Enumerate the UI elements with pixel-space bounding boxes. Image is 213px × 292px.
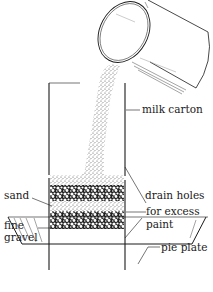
label-drain-holes-line3: paint [146, 219, 173, 230]
label-pie-plate: pie plate [161, 242, 207, 253]
label-fine-gravel-line1: fine [4, 220, 24, 231]
gravel-layer-bottom [50, 211, 124, 229]
sand-layer-top [50, 175, 124, 185]
label-sand: sand [4, 190, 29, 201]
gravel-layer-top [50, 185, 124, 201]
filter-layers [50, 168, 124, 231]
label-milk-carton: milk carton [142, 104, 203, 115]
sand-layer-middle [50, 201, 124, 211]
label-drain-holes-line1: drain holes [145, 190, 205, 201]
label-drain-holes-line2: for excess [146, 206, 200, 217]
sand-stream [84, 64, 120, 175]
label-fine-gravel-line2: gravel [4, 232, 38, 243]
filter-diagram: milk carton sand fine gravel drain holes… [0, 0, 213, 292]
